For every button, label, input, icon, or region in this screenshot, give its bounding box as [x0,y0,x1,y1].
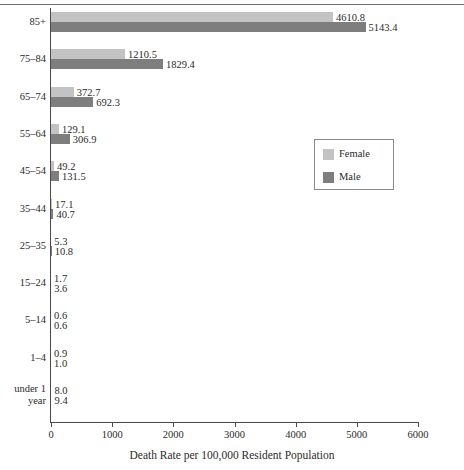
bar-value-label: 0.6 [54,321,67,331]
x-axis-tick-label: 5000 [334,429,380,440]
legend-label: Male [339,171,361,183]
bar [51,49,125,59]
x-axis-tick-label: 2000 [150,429,196,440]
bar [51,134,70,144]
bar [51,199,52,209]
y-axis-category-label: 75–84 [0,53,46,65]
bar [51,12,333,22]
x-axis-tick-mark [235,422,236,427]
bar [51,246,52,256]
y-axis-category-label-line: 15–24 [0,277,46,289]
bar [51,22,366,32]
x-axis-tick-mark [296,422,297,427]
x-axis-tick-mark [357,422,358,427]
y-axis-category-labels: 85+75–8465–7455–6445–5435–4425–3515–245–… [0,0,46,470]
y-axis-category-label-line: 35–44 [0,203,46,215]
legend-swatch-icon [323,149,334,160]
bar-value-label: 1.0 [54,359,67,369]
y-axis-category-label-line: under 1 [0,383,46,395]
legend-label: Female [339,148,370,160]
bar [51,161,54,171]
x-axis-title: Death Rate per 100,000 Resident Populati… [0,449,464,461]
y-axis-category-label-line: 45–54 [0,165,46,177]
x-axis-tick-mark [173,422,174,427]
bar-value-label: 10.8 [55,247,73,257]
bar-value-label: 17.1 [55,200,73,210]
y-axis-category-label-line: 65–74 [0,91,46,103]
bar [51,97,93,107]
y-axis-category-label: 35–44 [0,203,46,215]
y-axis-category-label: 85+ [0,16,46,28]
y-axis-category-label-line: 55–64 [0,128,46,140]
bar-value-label: 9.4 [55,396,68,406]
bar-value-label: 3.6 [54,284,67,294]
y-axis-category-label: 5–14 [0,314,46,326]
bar-value-label: 306.9 [73,135,97,145]
y-axis-category-label: 15–24 [0,277,46,289]
bar-value-label: 5143.4 [369,23,398,33]
bar-chart-figure: 85+75–8465–7455–6445–5435–4425–3515–245–… [0,0,464,470]
x-axis-tick-label: 4000 [273,429,319,440]
chart-legend: FemaleMale [314,139,394,190]
y-axis-category-label: 25–35 [0,240,46,252]
bar-value-label: 1829.4 [166,60,195,70]
y-axis-category-label: under 1year [0,383,46,407]
bar [51,209,53,219]
y-axis-category-label-line: 25–35 [0,240,46,252]
x-axis-tick-label: 3000 [212,429,258,440]
bar-value-label: 131.5 [62,172,86,182]
bar [51,87,74,97]
y-axis-category-label: 65–74 [0,91,46,103]
legend-swatch-icon [323,172,334,183]
plot-area [51,8,418,422]
x-axis-tick-mark [51,422,52,427]
y-axis-category-label-line: 5–14 [0,314,46,326]
y-axis-category-label: 45–54 [0,165,46,177]
bar [51,124,59,134]
top-divider-rule [0,4,464,5]
y-axis-category-label-line: 75–84 [0,53,46,65]
y-axis-category-label: 1–4 [0,352,46,364]
x-axis-tick-mark [112,422,113,427]
bar-value-label: 40.7 [56,210,74,220]
y-axis-category-label-line: 85+ [0,16,46,28]
bar [51,59,163,69]
y-axis-category-label: 55–64 [0,128,46,140]
x-axis-tick-label: 0 [28,429,74,440]
x-axis-tick-mark [418,422,419,427]
y-axis-category-label-line: 1–4 [0,352,46,364]
y-axis-category-label-line: year [0,395,46,407]
x-axis-tick-label: 6000 [395,429,441,440]
x-axis-tick-label: 1000 [89,429,135,440]
bar [51,171,59,181]
bar-value-label: 692.3 [96,98,120,108]
